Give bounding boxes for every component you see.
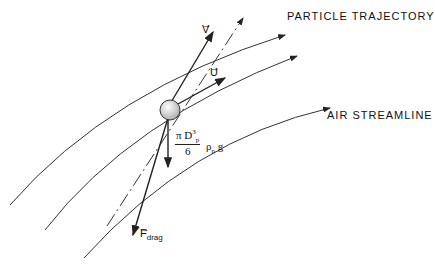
vector-arrow-icon: →	[210, 63, 219, 73]
particle-trajectory-label: PARTICLE TRAJECTORY	[287, 10, 435, 22]
p-subscript: p	[196, 136, 200, 144]
pi-d: π D	[176, 129, 192, 141]
velocity-v-label: →V	[202, 23, 209, 35]
velocity-v-arrow	[170, 32, 213, 104]
drag-subscript: drag	[147, 233, 163, 242]
vector-arrow-icon: →	[140, 224, 149, 234]
gravity-density-g: ρp g	[206, 140, 223, 155]
air-streamline-label: AIR STREAMLINE	[327, 109, 433, 121]
velocity-u-label: →U	[210, 66, 218, 78]
cube-exponent: 3	[192, 128, 196, 136]
fraction-denominator: 6	[175, 145, 200, 157]
gravity-force-label: π D3p 6	[175, 128, 200, 157]
drag-force-label: →Fdrag	[140, 227, 163, 242]
streamline-bottom	[84, 108, 330, 258]
particle-trajectory-line	[107, 18, 243, 226]
g-symbol: g	[218, 140, 224, 152]
particle-sphere	[160, 100, 180, 120]
rho-subscript: p	[212, 147, 216, 155]
fraction-numerator: π D3p	[175, 128, 200, 145]
drag-force-arrow	[133, 118, 168, 235]
streamline-top	[10, 35, 285, 205]
streamline-middle	[45, 56, 297, 230]
vector-arrow-icon: →	[202, 20, 211, 30]
